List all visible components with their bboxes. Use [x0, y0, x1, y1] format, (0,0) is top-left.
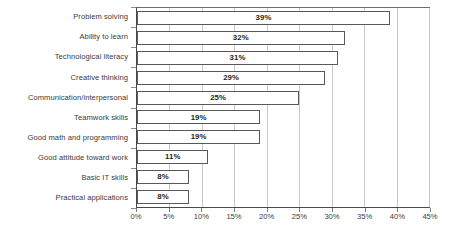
bar-row: 19%: [137, 108, 429, 128]
x-axis-label: 20%: [259, 213, 274, 221]
category-label: Practical applications: [0, 188, 132, 208]
x-axis-label: 10%: [194, 213, 209, 221]
bar-value-label: 19%: [191, 133, 207, 141]
bar[interactable]: 32%: [137, 31, 345, 45]
category-label: Good math and programming: [0, 128, 132, 148]
bar-row: 11%: [137, 147, 429, 167]
bar-value-label: 31%: [230, 54, 246, 62]
bar-row: 19%: [137, 127, 429, 147]
bar[interactable]: 25%: [137, 91, 299, 105]
bar[interactable]: 31%: [137, 51, 338, 65]
bar-row: 25%: [137, 88, 429, 108]
gridline: [429, 8, 430, 207]
bar-row: 31%: [137, 48, 429, 68]
bar-value-label: 39%: [256, 14, 272, 22]
bar[interactable]: 11%: [137, 150, 208, 164]
bar[interactable]: 19%: [137, 130, 260, 144]
x-axis-label: 5%: [163, 213, 174, 221]
x-axis-ticks: [136, 208, 430, 212]
bar-value-label: 19%: [191, 114, 207, 122]
bar-row: 29%: [137, 68, 429, 88]
bar-value-label: 25%: [210, 94, 226, 102]
bar[interactable]: 8%: [137, 190, 189, 204]
x-axis-label: 40%: [390, 213, 405, 221]
x-axis-label: 30%: [324, 213, 339, 221]
x-axis-label: 45%: [422, 213, 437, 221]
category-label: Creative thinking: [0, 67, 132, 87]
x-axis-labels: 0%5%10%15%20%25%30%35%40%45%: [136, 213, 430, 227]
category-label: Technological literacy: [0, 47, 132, 67]
bar[interactable]: 39%: [137, 11, 390, 25]
category-label: Problem solving: [0, 7, 132, 27]
category-label: Good attitude toward work: [0, 148, 132, 168]
plot-area: 39%32%31%29%25%19%19%11%8%8%: [136, 7, 430, 208]
x-axis-label: 25%: [292, 213, 307, 221]
bar-value-label: 8%: [157, 173, 168, 181]
bar[interactable]: 8%: [137, 170, 189, 184]
x-axis-label: 0%: [131, 213, 142, 221]
category-label: Ability to learn: [0, 27, 132, 47]
bar-value-label: 8%: [157, 193, 168, 201]
category-axis-labels: Problem solvingAbility to learnTechnolog…: [0, 7, 132, 208]
category-label: Basic IT skills: [0, 168, 132, 188]
x-axis-label: 15%: [226, 213, 241, 221]
bar-value-label: 29%: [223, 74, 239, 82]
bar-row: 32%: [137, 28, 429, 48]
bar[interactable]: 29%: [137, 71, 325, 85]
category-label: Teamwork skills: [0, 107, 132, 127]
bar-value-label: 11%: [165, 153, 180, 161]
bar-row: 8%: [137, 167, 429, 187]
bar-series: 39%32%31%29%25%19%19%11%8%8%: [137, 8, 429, 207]
bar-row: 8%: [137, 187, 429, 207]
x-axis-label: 35%: [357, 213, 372, 221]
bar[interactable]: 19%: [137, 110, 260, 124]
bar-value-label: 32%: [233, 34, 249, 42]
bar-chart: Problem solvingAbility to learnTechnolog…: [0, 0, 452, 246]
bar-row: 39%: [137, 8, 429, 28]
category-label: Communication/interpersonal: [0, 87, 132, 107]
